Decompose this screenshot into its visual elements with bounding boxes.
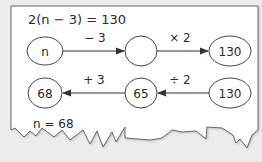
node-empty — [125, 36, 157, 66]
answer-text: n = 68 — [33, 117, 74, 131]
flow-diagram: 2(n − 3) = 130 n − 3 × 2 130 68 + 3 65 ÷… — [0, 0, 262, 162]
operation-label: ÷ 2 — [169, 73, 191, 87]
node-label: 130 — [219, 45, 242, 59]
node-label: 130 — [219, 87, 242, 101]
node-label: n — [41, 45, 49, 59]
operation-label: + 3 — [83, 73, 105, 87]
equation-text: 2(n − 3) = 130 — [28, 12, 126, 27]
node-label: 65 — [133, 87, 148, 101]
node-label: 68 — [37, 87, 52, 101]
operation-label: − 3 — [84, 31, 106, 45]
operation-label: × 2 — [169, 31, 191, 45]
